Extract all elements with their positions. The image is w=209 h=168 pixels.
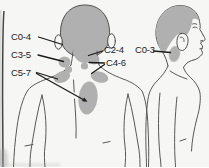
right-inner-arm — [128, 94, 140, 167]
profile-ear — [177, 33, 188, 50]
anatomy-illustration — [0, 0, 209, 167]
left-torso-side — [42, 95, 46, 167]
left-inner-arm — [30, 95, 42, 167]
right-torso-side — [124, 94, 128, 167]
leader-line-c4-6-upper — [89, 63, 105, 64]
shaded-region-midneck-right — [81, 62, 88, 69]
label-c2-4: C2-4 — [104, 44, 124, 55]
eye — [193, 27, 197, 28]
profile-clavicle — [170, 71, 187, 79]
leader-line-c0-3 — [154, 51, 171, 53]
spine-lines — [74, 80, 77, 138]
profile-chest-dash — [180, 139, 186, 141]
posterior-head — [60, 5, 109, 57]
label-c3-5: C3-5 — [11, 49, 31, 60]
lateral-figure — [146, 6, 205, 168]
waist-dashes — [25, 142, 110, 147]
profile-arm-back — [159, 93, 162, 167]
shaded-region-upper-neck-left — [59, 57, 71, 68]
label-c4-6: C4-6 — [106, 57, 126, 68]
eyebrow — [193, 24, 197, 25]
label-c5-7: C5-7 — [11, 67, 31, 78]
leader-line-c3-5 — [38, 55, 64, 62]
posterior-shaded-regions — [52, 50, 110, 115]
label-c0-3: C0-3 — [135, 44, 155, 55]
posterior-figure — [14, 5, 149, 167]
profile-front-neck-chest — [184, 68, 201, 152]
label-c0-4: C0-4 — [11, 31, 31, 42]
profile-arm-front — [175, 97, 177, 167]
referred-pain-diagram: C0-4 C3-5 C5-7 C2-4 C4-6 C0-3 — [0, 0, 209, 167]
